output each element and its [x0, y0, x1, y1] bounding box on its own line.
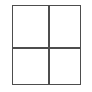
- grid-cell-top-right: [49, 6, 81, 47]
- diagram-canvas: [0, 0, 92, 92]
- grid-frame: [12, 5, 81, 85]
- grid-cell-bottom-right: [49, 48, 81, 84]
- grid-cell-bottom-left: [13, 48, 48, 84]
- grid-cell-top-left: [13, 6, 48, 47]
